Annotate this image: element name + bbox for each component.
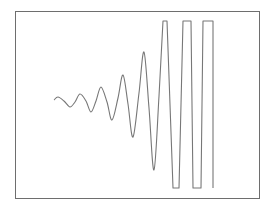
plot (0, 0, 270, 207)
signal-line (54, 21, 213, 188)
